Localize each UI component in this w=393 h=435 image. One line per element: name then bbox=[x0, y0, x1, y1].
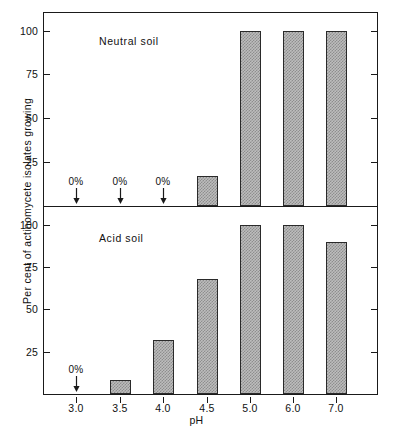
y-tick-label-25: 25 bbox=[26, 346, 38, 358]
y-tick-left-75 bbox=[43, 267, 50, 268]
panel-divider bbox=[43, 206, 378, 207]
zero-annotation-acid-soil-panel-ph-3.0: 0% bbox=[56, 364, 96, 392]
bar-acid-soil-panel-ph-5.0 bbox=[240, 225, 261, 394]
y-tick-right-25 bbox=[371, 162, 378, 163]
y-tick-left-25 bbox=[43, 352, 50, 353]
bar-chart-figure: Neutral soil 2550751000%0%0% Acid soil 2… bbox=[0, 0, 393, 435]
y-tick-right-75 bbox=[371, 267, 378, 268]
x-tick-label-3.5: 3.5 bbox=[112, 402, 128, 414]
acid-soil-caption: Acid soil bbox=[99, 232, 144, 244]
y-axis-title: Per cent of actinomycete isolates growin… bbox=[21, 81, 33, 321]
x-tick-label-3.0: 3.0 bbox=[68, 402, 84, 414]
y-tick-right-75 bbox=[371, 74, 378, 75]
y-tick-left-100 bbox=[43, 225, 50, 226]
bar-acid-soil-panel-ph-7.0 bbox=[326, 242, 347, 394]
y-tick-right-25 bbox=[371, 352, 378, 353]
neutral-soil-panel: Neutral soil 2550751000%0%0% bbox=[43, 13, 378, 206]
y-tick-left-25 bbox=[43, 162, 50, 163]
down-arrow-icon bbox=[72, 376, 81, 392]
y-tick-left-50 bbox=[43, 118, 50, 119]
zero-annotation-label: 0% bbox=[56, 364, 96, 375]
x-axis-tick-labels: 3.03.54.04.55.06.07.0 bbox=[43, 397, 378, 412]
x-tick-label-6.0: 6.0 bbox=[285, 402, 301, 414]
neutral-soil-caption: Neutral soil bbox=[99, 35, 159, 47]
y-tick-left-50 bbox=[43, 309, 50, 310]
zero-annotation-neutral-soil-panel-ph-3.0: 0% bbox=[56, 176, 96, 204]
zero-annotation-label: 0% bbox=[56, 176, 96, 187]
bar-acid-soil-panel-ph-4.5 bbox=[197, 279, 218, 394]
y-tick-left-100 bbox=[43, 31, 50, 32]
y-tick-label-75: 75 bbox=[26, 68, 38, 80]
y-tick-left-75 bbox=[43, 74, 50, 75]
y-tick-label-100: 100 bbox=[20, 25, 38, 37]
acid-soil-panel: Acid soil 2550751000% bbox=[43, 208, 378, 394]
zero-annotation-label: 0% bbox=[143, 176, 183, 187]
y-tick-right-50 bbox=[371, 309, 378, 310]
bar-acid-soil-panel-ph-4.0 bbox=[153, 340, 174, 394]
down-arrow-icon bbox=[72, 188, 81, 204]
bar-acid-soil-panel-ph-3.5 bbox=[110, 380, 131, 394]
down-arrow-icon bbox=[159, 188, 168, 204]
bar-acid-soil-panel-ph-6.0 bbox=[283, 225, 304, 394]
x-tick-label-7.0: 7.0 bbox=[328, 402, 344, 414]
y-tick-right-100 bbox=[371, 225, 378, 226]
zero-annotation-neutral-soil-panel-ph-3.5: 0% bbox=[100, 176, 140, 204]
bar-neutral-soil-panel-ph-7.0 bbox=[326, 31, 347, 206]
bar-neutral-soil-panel-ph-5.0 bbox=[240, 31, 261, 206]
y-tick-right-50 bbox=[371, 118, 378, 119]
y-tick-right-100 bbox=[371, 31, 378, 32]
down-arrow-icon bbox=[116, 188, 125, 204]
x-tick-label-5.0: 5.0 bbox=[242, 402, 258, 414]
bar-neutral-soil-panel-ph-6.0 bbox=[283, 31, 304, 206]
x-axis-title: pH bbox=[0, 414, 393, 426]
x-tick-label-4.5: 4.5 bbox=[199, 402, 215, 414]
zero-annotation-neutral-soil-panel-ph-4.0: 0% bbox=[143, 176, 183, 204]
bar-neutral-soil-panel-ph-4.5 bbox=[197, 176, 218, 206]
zero-annotation-label: 0% bbox=[100, 176, 140, 187]
x-tick-label-4.0: 4.0 bbox=[155, 402, 171, 414]
